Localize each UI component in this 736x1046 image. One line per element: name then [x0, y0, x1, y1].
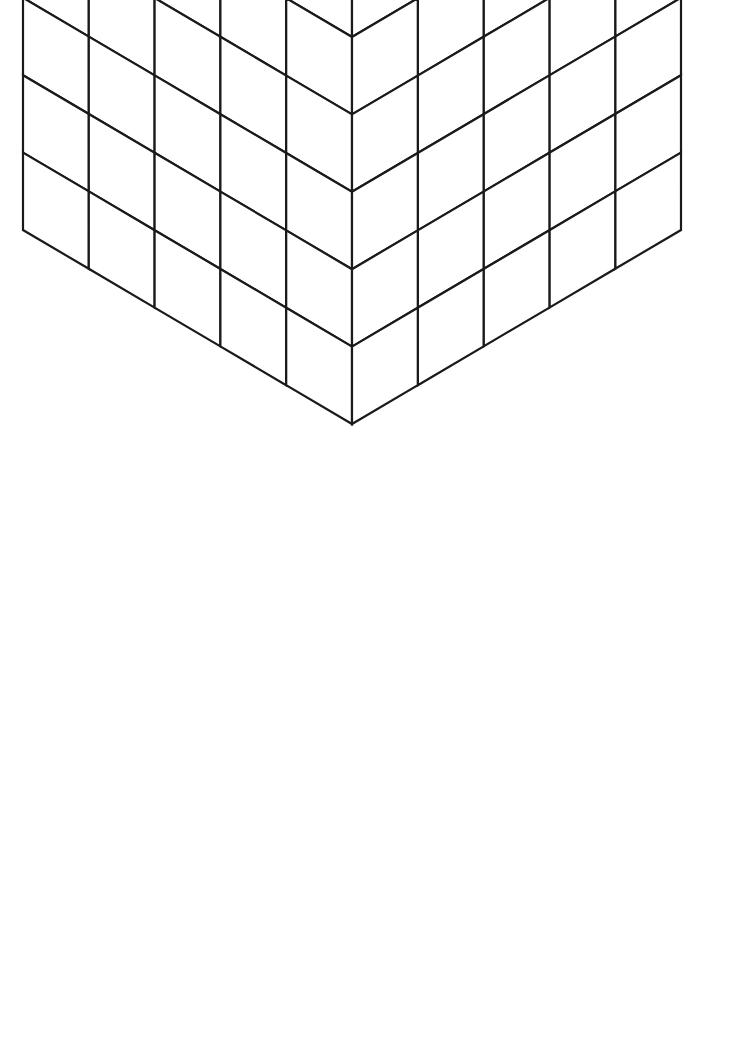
artwork-canvas — [0, 0, 736, 1046]
isometric-cube-illustration — [0, 0, 736, 1046]
